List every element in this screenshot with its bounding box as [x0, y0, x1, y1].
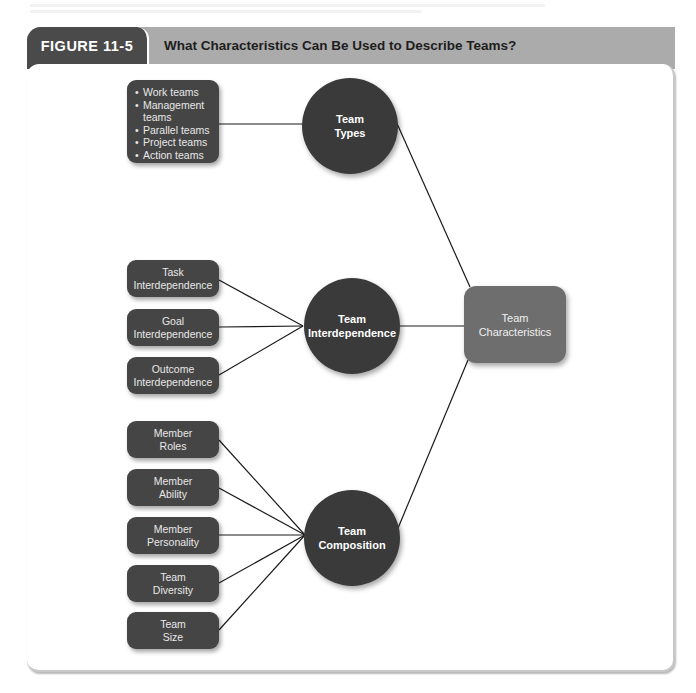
center-label-line1: Team [479, 311, 552, 325]
list-item: Action teams [135, 149, 213, 162]
hub-label-line2: Types [335, 126, 366, 140]
leaf-label-line2: Diversity [153, 584, 193, 597]
hub-team-types: TeamTypes [302, 78, 398, 174]
leaf-goal-interdependence: GoalInterdependence [127, 309, 219, 346]
hub-label-line1: Team [318, 524, 385, 538]
center-node-team-characteristics: TeamCharacteristics [464, 286, 566, 363]
leaf-task-interdependence: TaskInterdependence [127, 260, 219, 297]
leaf-member-roles: MemberRoles [127, 421, 219, 458]
hub-team-composition: TeamComposition [304, 490, 400, 586]
center-label-line2: Characteristics [479, 325, 552, 339]
list-item: Management teams [135, 99, 213, 124]
hub-team-interdependence: TeamInterdependence [304, 278, 400, 374]
hub-label-line1: Team [308, 312, 396, 326]
leaf-label-line1: Team [153, 571, 193, 584]
leaf-label-line1: Team [160, 618, 186, 631]
team-types-list: Work teams Management teams Parallel tea… [135, 86, 213, 161]
leaf-label-line1: Member [147, 523, 199, 536]
leaf-label-line1: Outcome [134, 363, 213, 376]
team-types-list-box: Work teams Management teams Parallel tea… [127, 80, 219, 163]
leaf-team-size: TeamSize [127, 612, 219, 649]
leaf-label-line2: Roles [154, 440, 193, 453]
leaf-label-line2: Interdependence [134, 328, 213, 341]
leaf-label-line1: Task [134, 266, 213, 279]
leaf-label-line1: Goal [134, 315, 213, 328]
leaf-member-personality: MemberPersonality [127, 517, 219, 554]
hub-label-line1: Team [335, 112, 366, 126]
leaf-label-line1: Member [154, 475, 193, 488]
hub-label-line2: Interdependence [308, 326, 396, 340]
leaf-label-line1: Member [154, 427, 193, 440]
leaf-label-line2: Ability [154, 488, 193, 501]
hub-label-line2: Composition [318, 538, 385, 552]
leaf-team-diversity: TeamDiversity [127, 565, 219, 602]
leaf-member-ability: MemberAbility [127, 469, 219, 506]
leaf-label-line2: Interdependence [134, 376, 213, 389]
leaf-label-line2: Interdependence [134, 279, 213, 292]
list-item: Parallel teams [135, 124, 213, 137]
leaf-outcome-interdependence: OutcomeInterdependence [127, 357, 219, 394]
leaf-label-line2: Personality [147, 536, 199, 549]
leaf-label-line2: Size [160, 631, 186, 644]
list-item: Project teams [135, 136, 213, 149]
list-item: Work teams [135, 86, 213, 99]
